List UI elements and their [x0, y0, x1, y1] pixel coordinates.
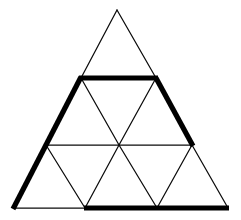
diagram-background	[0, 0, 241, 220]
triangle-diagram	[0, 0, 241, 220]
figure-container: Subdivided equilateral triangle with bol…	[0, 0, 241, 220]
